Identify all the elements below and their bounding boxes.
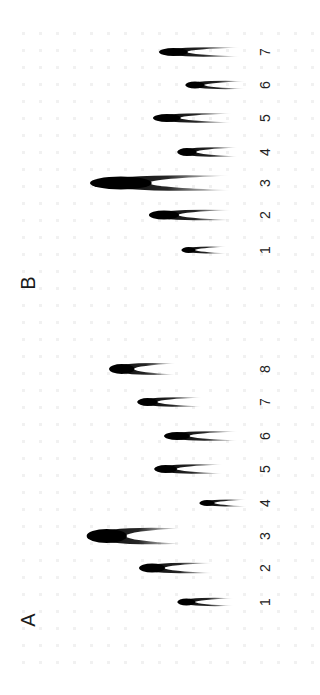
band bbox=[177, 598, 234, 606]
lane-label: 7 bbox=[257, 44, 273, 60]
band bbox=[87, 528, 181, 545]
band bbox=[185, 81, 246, 89]
band bbox=[159, 47, 240, 57]
bands-layer bbox=[0, 0, 320, 695]
band bbox=[154, 464, 223, 474]
lane-label: 5 bbox=[257, 110, 273, 126]
lane-label: 7 bbox=[257, 394, 273, 410]
lane-label: 6 bbox=[257, 77, 273, 93]
lane-label: 5 bbox=[257, 461, 273, 477]
lane-label: 4 bbox=[257, 495, 273, 511]
gel-figure: A12345678B1234567 bbox=[0, 0, 320, 695]
lane-label: 4 bbox=[257, 144, 273, 160]
band bbox=[109, 363, 176, 375]
band bbox=[153, 113, 232, 123]
lane-label: 2 bbox=[257, 207, 273, 223]
band bbox=[90, 175, 230, 190]
lane-label: 3 bbox=[257, 528, 273, 544]
panel-letter-b: B bbox=[16, 271, 40, 295]
band bbox=[177, 147, 238, 157]
band bbox=[139, 563, 213, 574]
lane-label: 8 bbox=[257, 361, 273, 377]
lane-label: 2 bbox=[257, 560, 273, 576]
panel-letter-a: A bbox=[16, 608, 40, 632]
band bbox=[199, 499, 247, 506]
band bbox=[164, 431, 238, 441]
lane-label: 6 bbox=[257, 428, 273, 444]
lane-label: 1 bbox=[257, 594, 273, 610]
lane-label: 1 bbox=[257, 242, 273, 258]
band bbox=[149, 210, 232, 221]
band bbox=[137, 397, 202, 407]
band bbox=[181, 246, 227, 253]
lane-label: 3 bbox=[257, 175, 273, 191]
